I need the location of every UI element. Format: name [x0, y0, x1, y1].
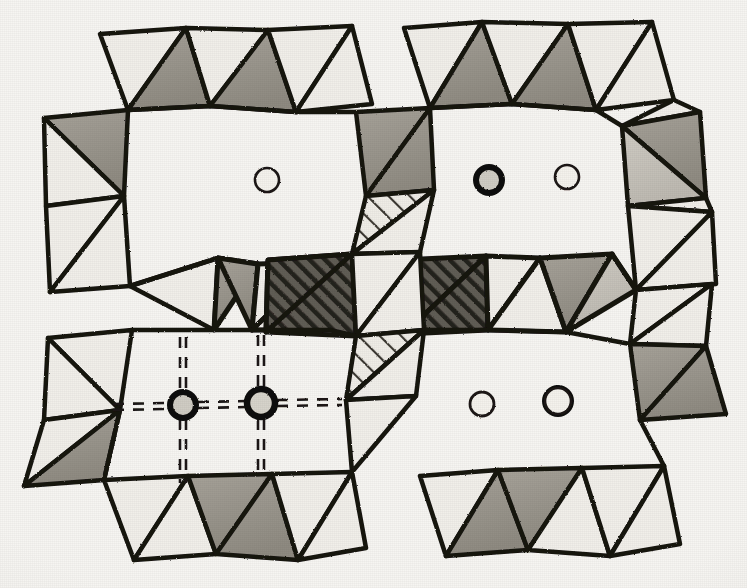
atom-open-br: [545, 388, 571, 414]
crystal-structure-figure: [0, 0, 747, 588]
tetra-flank-upper-right: [622, 100, 716, 290]
tetra-row-bottom-right: [420, 466, 680, 556]
atom-site-filled-atom-bl-1: [170, 392, 196, 418]
atom-site-filled-atom-tr-2: [555, 165, 579, 189]
tetra-row-top-right: [404, 22, 674, 110]
structure-canvas: [0, 0, 747, 588]
tetra-dark-hatched-left: [266, 254, 356, 336]
atom-site-filled-atom-br-1: [470, 392, 494, 416]
atom-site-filled-atom-tl-2: [255, 168, 279, 192]
tetra-flank-upper-left: [44, 110, 130, 292]
tetra-row-bottom-left: [104, 472, 366, 560]
tetra-row-top-left: [100, 26, 372, 112]
atom-site-open-atom-tr-1: [476, 167, 502, 193]
atom-site-open-atom-bl-2: [247, 389, 275, 417]
tetra-central-column-upper: [352, 108, 434, 254]
